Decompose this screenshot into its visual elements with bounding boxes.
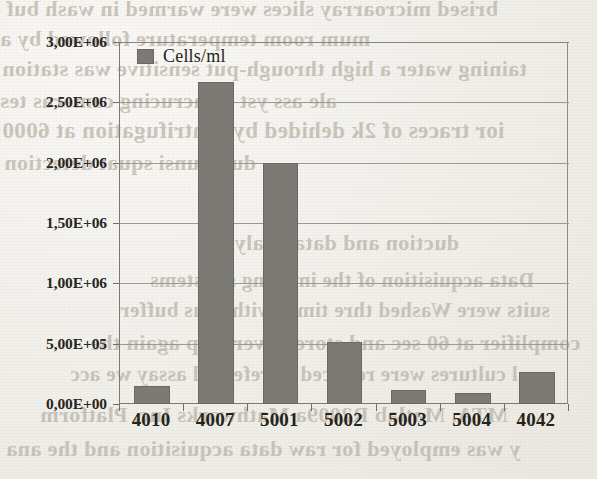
bar bbox=[263, 163, 299, 404]
gridline bbox=[120, 223, 569, 224]
bar bbox=[391, 390, 427, 404]
y-axis-tick-label: 1,00E+06 bbox=[0, 274, 107, 292]
y-axis-tick-label: 3,00E+06 bbox=[0, 33, 107, 51]
chart-legend: Cells/ml bbox=[137, 46, 226, 67]
gridline bbox=[120, 42, 569, 43]
gridline bbox=[120, 102, 569, 103]
bar bbox=[198, 82, 234, 404]
bar bbox=[134, 386, 170, 404]
y-axis-tick-label: 0,00E+00 bbox=[0, 395, 107, 413]
gridline bbox=[120, 283, 569, 284]
bar bbox=[455, 393, 491, 404]
x-axis-tick-label: 5002 bbox=[311, 409, 375, 431]
y-axis-tick-label: 2,50E+06 bbox=[0, 93, 107, 111]
x-axis-tick-label: 4007 bbox=[183, 409, 247, 431]
scanned-page-background: brised microarray slices were warmed in … bbox=[0, 0, 597, 479]
x-axis-tick-mark bbox=[568, 404, 569, 411]
x-axis-tick-label: 5001 bbox=[247, 409, 311, 431]
x-axis-tick-label: 4010 bbox=[119, 409, 183, 431]
x-axis-tick-label: 5003 bbox=[376, 409, 440, 431]
bar-chart: 0,00E+005,00E+051,00E+061,50E+062,00E+06… bbox=[0, 0, 597, 479]
x-axis-tick-label: 5004 bbox=[440, 409, 504, 431]
y-axis-tick-label: 1,50E+06 bbox=[0, 214, 107, 232]
plot-area bbox=[119, 42, 568, 404]
legend-swatch-cells-per-ml bbox=[137, 49, 154, 64]
y-axis-tick-label: 5,00E+05 bbox=[0, 335, 107, 353]
bar bbox=[519, 372, 555, 404]
x-axis-tick-label: 4042 bbox=[504, 409, 568, 431]
y-axis-tick-label: 2,00E+06 bbox=[0, 154, 107, 172]
bar bbox=[327, 342, 363, 404]
legend-label-cells-per-ml: Cells/ml bbox=[163, 46, 226, 67]
gridline bbox=[120, 163, 569, 164]
